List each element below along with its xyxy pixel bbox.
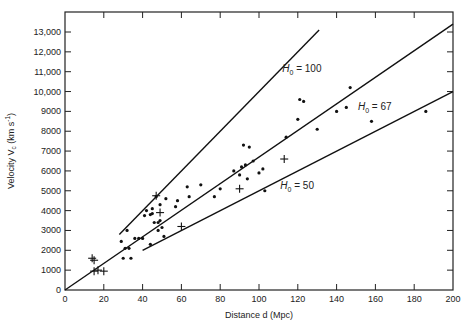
cross-point <box>100 267 108 275</box>
data-points <box>88 86 427 275</box>
y-tick-label: 10,000 <box>33 87 61 97</box>
galaxy-point <box>240 165 243 168</box>
y-tick-label: 0 <box>56 285 61 295</box>
x-tick-label: 180 <box>407 294 422 304</box>
galaxy-point <box>238 173 241 176</box>
galaxy-point <box>162 235 165 238</box>
y-tick-label: 6000 <box>41 166 61 176</box>
galaxy-point <box>263 189 266 192</box>
y-tick-label: 11,000 <box>34 67 61 77</box>
galaxy-point <box>133 237 136 240</box>
hubble-diagram: 020406080100120140160180200 010002000300… <box>0 0 471 324</box>
galaxy-point <box>261 167 264 170</box>
galaxy-point <box>244 163 247 166</box>
galaxy-point <box>158 219 161 222</box>
x-tick-label: 40 <box>138 294 148 304</box>
x-tick-label: 140 <box>329 294 344 304</box>
fit-line <box>65 24 453 290</box>
cross-point <box>88 254 96 262</box>
galaxy-point <box>120 240 123 243</box>
galaxy-point <box>158 203 161 206</box>
cross-point <box>90 256 98 264</box>
cross-point <box>94 266 102 274</box>
cross-point <box>280 155 288 163</box>
x-axis-ticks: 020406080100120140160180200 <box>62 12 460 304</box>
galaxy-point <box>149 243 152 246</box>
galaxy-point <box>151 212 154 215</box>
galaxy-point <box>125 229 128 232</box>
y-tick-label: 9000 <box>41 106 61 116</box>
galaxy-point <box>248 146 251 149</box>
plot-frame <box>65 12 453 290</box>
galaxy-point <box>335 110 338 113</box>
galaxy-point <box>164 197 167 200</box>
x-tick-label: 200 <box>445 294 460 304</box>
galaxy-point <box>298 98 301 101</box>
galaxy-point <box>199 183 202 186</box>
galaxy-point <box>252 159 255 162</box>
cross-point <box>236 185 244 193</box>
x-tick-label: 20 <box>99 294 109 304</box>
x-tick-label: 160 <box>368 294 383 304</box>
galaxy-point <box>316 128 319 131</box>
galaxy-point <box>242 144 245 147</box>
x-tick-label: 80 <box>215 294 225 304</box>
galaxy-point <box>345 106 348 109</box>
galaxy-point <box>122 257 125 260</box>
fit-line <box>119 30 319 234</box>
galaxy-point <box>424 110 427 113</box>
galaxy-point <box>129 257 132 260</box>
galaxy-point <box>176 199 179 202</box>
galaxy-point <box>188 195 191 198</box>
fit-line <box>143 92 453 251</box>
galaxy-point <box>137 237 140 240</box>
y-tick-label: 7000 <box>41 146 61 156</box>
y-tick-label: 1000 <box>41 265 61 275</box>
fit-line-label: H0 = 67 <box>358 101 392 114</box>
galaxy-point <box>296 118 299 121</box>
galaxy-point <box>219 187 222 190</box>
galaxy-point <box>141 237 144 240</box>
galaxy-point <box>370 120 373 123</box>
galaxy-point <box>257 171 260 174</box>
y-tick-label: 3000 <box>41 225 61 235</box>
x-tick-label: 0 <box>62 294 67 304</box>
galaxy-point <box>213 195 216 198</box>
galaxy-point <box>186 185 189 188</box>
y-tick-label: 2000 <box>41 245 61 255</box>
y-axis-title: Velocity Vc (km s-1) <box>4 113 17 189</box>
y-tick-label: 12,000 <box>33 47 61 57</box>
cross-point <box>156 209 164 217</box>
galaxy-point <box>160 226 163 229</box>
x-axis-title: Distance d (Mpc) <box>225 310 293 320</box>
y-tick-label: 8000 <box>41 126 61 136</box>
x-tick-label: 100 <box>251 294 266 304</box>
x-tick-label: 60 <box>176 294 186 304</box>
y-tick-label: 4000 <box>41 206 61 216</box>
y-tick-label: 5000 <box>41 186 61 196</box>
y-tick-label: 13,000 <box>33 27 61 37</box>
galaxy-point <box>143 214 146 217</box>
galaxy-point <box>174 205 177 208</box>
fit-line-label: H0 = 100 <box>282 63 322 76</box>
galaxy-point <box>285 136 288 139</box>
galaxy-point <box>246 177 249 180</box>
galaxy-point <box>145 209 148 212</box>
galaxy-point <box>151 207 154 210</box>
galaxy-point <box>127 247 130 250</box>
galaxy-point <box>232 169 235 172</box>
galaxy-point <box>153 221 156 224</box>
fit-line-label: H0 = 50 <box>280 180 314 193</box>
galaxy-point <box>349 86 352 89</box>
galaxy-point <box>302 100 305 103</box>
galaxy-point <box>157 229 160 232</box>
x-tick-label: 120 <box>290 294 305 304</box>
plot-border <box>65 12 453 290</box>
hubble-fit-lines: H0 = 100H0 = 67H0 = 50 <box>65 24 453 290</box>
galaxy-point <box>124 247 127 250</box>
